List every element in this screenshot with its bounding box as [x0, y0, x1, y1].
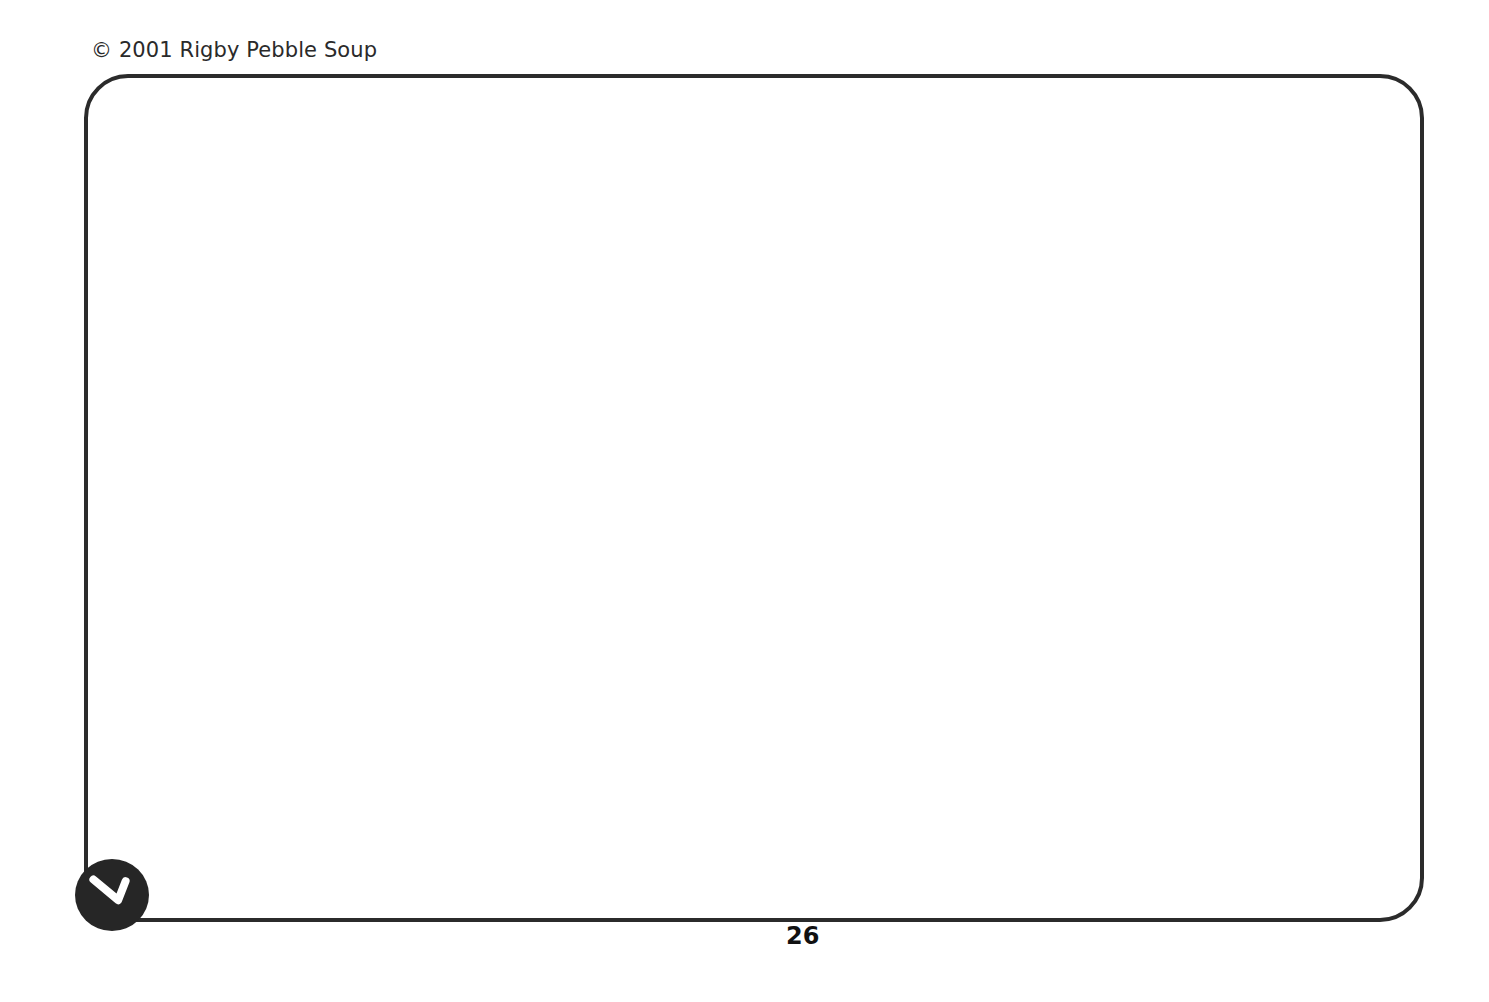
check-mark-icon [75, 859, 149, 931]
corner-badge [75, 859, 149, 931]
blank-page-frame [84, 74, 1424, 922]
copyright-text: © 2001 Rigby Pebble Soup [91, 38, 377, 62]
page-number: 26 [786, 922, 819, 950]
